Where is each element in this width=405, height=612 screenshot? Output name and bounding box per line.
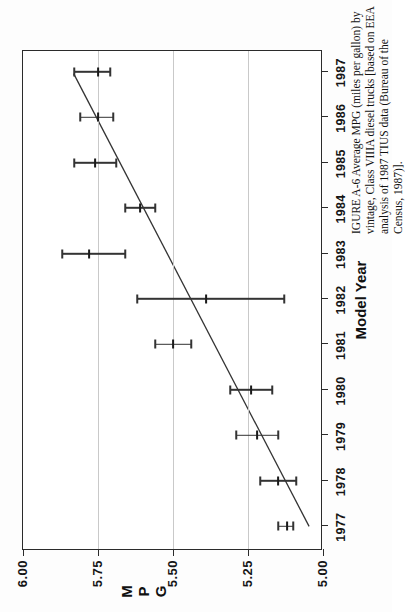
- y-axis-title-char-m: M: [118, 578, 135, 604]
- y-axis-tick-label: 6.00: [15, 560, 30, 612]
- caption-line-2: analysis of 1987 TIUS data (Bureau of th…: [378, 2, 405, 234]
- figure-caption: IGURE A-6 Average MPG (miles per gallon)…: [350, 2, 405, 234]
- x-axis-tick-label: 1978: [334, 456, 348, 508]
- x-axis-tick-label: 1985: [334, 138, 348, 190]
- x-axis-tick-label: 1981: [334, 319, 348, 371]
- y-axis-tick: [248, 549, 249, 556]
- data-point: [205, 295, 207, 304]
- error-bar: [74, 71, 110, 73]
- x-axis-tick-label: 1979: [334, 410, 348, 462]
- error-bar-cap: [115, 158, 117, 167]
- error-bar: [137, 298, 284, 300]
- error-bar-cap: [277, 522, 279, 531]
- x-axis-tick-label: 1983: [334, 229, 348, 281]
- y-axis-tick-label: 5.25: [240, 560, 255, 612]
- x-axis-tick: [321, 343, 328, 344]
- data-point: [97, 113, 99, 122]
- error-bar-cap: [277, 431, 279, 440]
- x-axis-tick-label: 1982: [334, 274, 348, 326]
- error-bar: [62, 253, 125, 255]
- x-axis-tick-label: 1984: [334, 183, 348, 235]
- data-point: [277, 476, 279, 485]
- x-axis-tick: [321, 116, 328, 117]
- error-bar-cap: [235, 431, 237, 440]
- grid-line: [173, 51, 174, 549]
- error-bar-cap: [154, 204, 156, 213]
- error-bar-cap: [283, 295, 285, 304]
- data-point: [139, 204, 141, 213]
- error-bar-cap: [124, 249, 126, 258]
- y-axis-tick: [98, 549, 99, 556]
- data-point: [88, 249, 90, 258]
- plot-area: [22, 50, 322, 550]
- x-axis-tick: [321, 525, 328, 526]
- x-axis-tick: [321, 389, 328, 390]
- x-axis-tick-label: 1977: [334, 501, 348, 553]
- error-bar-cap: [259, 476, 261, 485]
- error-bar-cap: [154, 340, 156, 349]
- error-bar-cap: [190, 340, 192, 349]
- data-point: [286, 522, 288, 531]
- error-bar-cap: [73, 158, 75, 167]
- x-axis-tick: [321, 253, 328, 254]
- data-point: [94, 158, 96, 167]
- x-axis-tick-label: 1986: [334, 92, 348, 144]
- x-axis-tick: [321, 298, 328, 299]
- y-axis-tick: [173, 549, 174, 556]
- error-bar-cap: [136, 295, 138, 304]
- x-axis-tick: [321, 71, 328, 72]
- x-axis-tick-label: 1980: [334, 365, 348, 417]
- data-point: [172, 340, 174, 349]
- x-axis-tick: [321, 207, 328, 208]
- error-bar-cap: [229, 385, 231, 394]
- x-axis-tick: [321, 434, 328, 435]
- grid-line: [98, 51, 99, 549]
- error-bar-cap: [295, 476, 297, 485]
- y-axis-title: M P G: [118, 578, 169, 604]
- y-axis-title-char-g: G: [152, 578, 169, 604]
- x-axis-tick-label: 1987: [334, 47, 348, 99]
- error-bar-cap: [124, 204, 126, 213]
- y-axis-tick: [323, 549, 324, 556]
- error-bar-cap: [109, 67, 111, 76]
- error-bar-cap: [112, 113, 114, 122]
- data-point: [97, 67, 99, 76]
- error-bar-cap: [61, 249, 63, 258]
- x-axis-tick: [321, 162, 328, 163]
- y-axis-tick-label: 5.75: [90, 560, 105, 612]
- error-bar-cap: [292, 522, 294, 531]
- data-point: [256, 431, 258, 440]
- y-axis-tick: [23, 549, 24, 556]
- y-axis-title-char-p: P: [135, 578, 152, 604]
- y-axis-tick-label: 5.00: [315, 560, 330, 612]
- trend-line: [23, 51, 321, 549]
- x-axis-tick: [321, 480, 328, 481]
- caption-line-1: IGURE A-6 Average MPG (miles per gallon)…: [350, 2, 377, 234]
- error-bar-cap: [73, 67, 75, 76]
- error-bar-cap: [79, 113, 81, 122]
- grid-line: [248, 51, 249, 549]
- figure-caption-wrapper: IGURE A-6 Average MPG (miles per gallon)…: [350, 2, 394, 234]
- data-point: [250, 385, 252, 394]
- error-bar-cap: [271, 385, 273, 394]
